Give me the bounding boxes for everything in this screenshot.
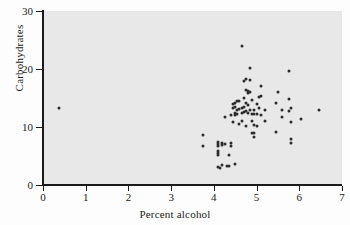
scatter-plot-figure: Percent alcohol Carbohydrates 0102030012…: [0, 0, 350, 225]
data-point: [247, 112, 250, 115]
data-point: [300, 117, 303, 120]
y-axis-tick-label: 0: [28, 180, 34, 191]
data-point: [289, 137, 292, 140]
x-axis-tick-label: 6: [297, 192, 303, 203]
data-point: [244, 124, 247, 127]
data-point: [234, 163, 237, 166]
data-point: [281, 108, 284, 111]
data-point: [287, 69, 290, 72]
data-point: [289, 107, 292, 110]
y-axis-title: Carbohydrates: [13, 0, 25, 123]
x-axis-line: [42, 184, 342, 186]
data-point: [281, 115, 284, 118]
data-point: [240, 120, 243, 123]
data-point: [217, 154, 220, 157]
data-point: [257, 107, 260, 110]
data-point: [249, 91, 252, 94]
data-point: [229, 113, 232, 116]
data-point: [249, 79, 252, 82]
data-point: [274, 102, 277, 105]
data-point: [223, 115, 226, 118]
y-axis-tick-label: 20: [22, 64, 33, 75]
x-axis-title: Percent alcohol: [0, 208, 350, 220]
x-axis-tick-label: 5: [254, 192, 260, 203]
data-point: [244, 78, 247, 81]
data-point: [227, 153, 230, 156]
data-point: [236, 113, 239, 116]
data-point: [229, 144, 232, 147]
data-point: [287, 97, 290, 100]
data-point: [238, 99, 241, 102]
y-axis-tick: [36, 127, 42, 128]
data-point: [232, 120, 235, 123]
data-point: [276, 91, 279, 94]
x-axis-tick-label: 3: [168, 192, 174, 203]
data-point: [259, 114, 262, 117]
data-point: [223, 142, 226, 145]
y-axis-tick-label: 10: [22, 122, 33, 133]
data-point: [202, 144, 205, 147]
data-point: [255, 102, 258, 105]
data-point: [255, 125, 258, 128]
x-axis-tick-label: 2: [126, 192, 132, 203]
data-point: [240, 44, 243, 47]
data-point: [251, 99, 254, 102]
data-point: [217, 145, 220, 148]
x-axis-tick-label: 4: [211, 192, 217, 203]
y-axis-tick: [36, 69, 42, 70]
data-point: [58, 106, 61, 109]
x-axis-tick-label: 1: [83, 192, 89, 203]
data-point: [253, 108, 256, 111]
y-axis-line: [42, 10, 44, 186]
x-axis-tick-label: 0: [40, 192, 46, 203]
data-point: [221, 164, 224, 167]
plot-data-area: [44, 11, 342, 185]
x-axis-tick-label: 7: [339, 192, 345, 203]
data-point: [259, 95, 262, 98]
data-point: [227, 164, 230, 167]
y-axis-tick: [36, 11, 42, 12]
data-point: [202, 134, 205, 137]
data-point: [259, 84, 262, 87]
data-point: [253, 135, 256, 138]
data-point: [274, 130, 277, 133]
data-point: [249, 66, 252, 69]
data-point: [242, 97, 245, 100]
y-axis-tick-label: 30: [22, 6, 33, 17]
data-point: [289, 120, 292, 123]
data-point: [251, 120, 254, 123]
y-axis-tick: [36, 185, 42, 186]
data-point: [255, 112, 258, 115]
data-point: [264, 108, 267, 111]
data-point: [264, 119, 267, 122]
data-point: [289, 142, 292, 145]
data-point: [247, 103, 250, 106]
data-point: [317, 108, 320, 111]
